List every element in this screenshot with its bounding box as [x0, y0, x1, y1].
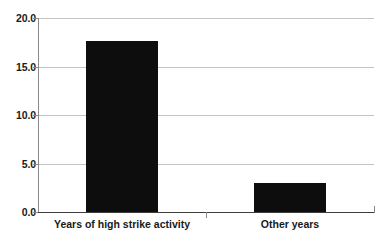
bar-other-years	[254, 183, 325, 212]
y-tick-label-10: 10.0	[2, 110, 36, 121]
y-tick-label-5: 5.0	[2, 158, 36, 169]
bars-layer	[38, 18, 374, 212]
x-axis-category-divider-tick	[206, 212, 207, 218]
bar-years-of-high-strike-activity	[86, 41, 157, 212]
x-tick-label-years-of-high-strike-activity: Years of high strike activity	[38, 219, 206, 231]
y-axis: 20.0 15.0 10.0 5.0 0.0	[0, 0, 36, 241]
x-axis-right-tick	[374, 206, 375, 213]
x-axis: Years of high strike activity Other year…	[38, 219, 374, 239]
y-axis-line	[38, 18, 39, 213]
y-tick-label-15: 15.0	[2, 61, 36, 72]
bar-chart: 20.0 15.0 10.0 5.0 0.0 Years of high str…	[0, 0, 382, 241]
y-tick-label-20: 20.0	[2, 13, 36, 24]
x-tick-label-other-years: Other years	[206, 219, 374, 231]
y-tick-label-0: 0.0	[2, 207, 36, 218]
